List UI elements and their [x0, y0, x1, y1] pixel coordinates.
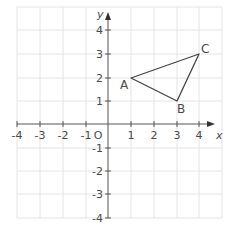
- axes: [17, 17, 211, 218]
- x-tick-label: -2: [58, 129, 69, 142]
- y-tick-label: 3: [96, 48, 103, 61]
- x-tick-label: -3: [35, 129, 46, 142]
- y-tick-label: -2: [92, 165, 103, 178]
- y-tick-label: 4: [96, 24, 103, 37]
- y-tick-label: -4: [92, 212, 103, 225]
- vertex-label-c: C: [201, 42, 209, 56]
- x-tick-labels: -4 -3 -2 -1 1 2 3 4: [12, 129, 203, 142]
- coordinate-grid: -4 -3 -2 -1 1 2 3 4 O x 4 3 2 1 -1 -2 -3…: [0, 0, 231, 234]
- y-axis-arrow-icon: [105, 12, 111, 20]
- origin-label: O: [94, 129, 103, 142]
- y-tick-label: -1: [92, 142, 103, 155]
- x-tick-label: 1: [128, 129, 135, 142]
- grid-lines: [17, 7, 222, 218]
- x-tick-label: 3: [174, 129, 181, 142]
- x-tick-label: 4: [196, 129, 203, 142]
- x-tick-label: 2: [151, 129, 158, 142]
- x-axis-label: x: [215, 129, 223, 142]
- vertex-label-b: B: [177, 102, 185, 116]
- y-tick-label: -3: [92, 188, 103, 201]
- x-axis-arrow-icon: [207, 121, 215, 127]
- y-tick-label: 1: [96, 95, 103, 108]
- y-axis-label: y: [96, 8, 104, 21]
- vertex-label-a: A: [120, 78, 129, 92]
- y-tick-label: 2: [96, 72, 103, 85]
- x-tick-label: -4: [12, 129, 23, 142]
- x-tick-label: -1: [81, 129, 92, 142]
